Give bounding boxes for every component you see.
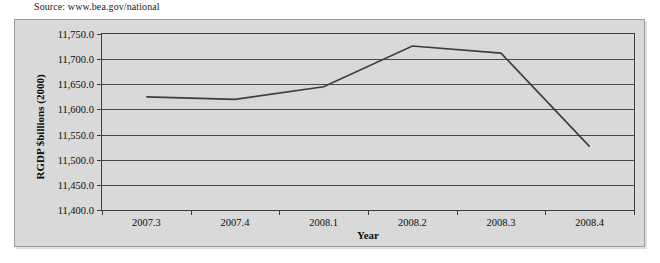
series-line-rgdp bbox=[102, 34, 636, 212]
x-axis-tick-label: 2008.2 bbox=[398, 217, 427, 228]
y-axis-tick-label: 11,400.0 bbox=[58, 205, 94, 216]
y-axis-tick-label: 11,500.0 bbox=[58, 154, 94, 165]
x-axis-title: Year bbox=[101, 229, 635, 241]
x-axis-tick-label: 2008.3 bbox=[487, 217, 516, 228]
y-axis-title: RGDP $billions (2000) bbox=[33, 38, 47, 216]
y-axis-tick-label: 11,650.0 bbox=[58, 79, 94, 90]
y-axis-tick-label: 11,700.0 bbox=[58, 54, 94, 65]
y-axis-tick-label: 11,600.0 bbox=[58, 104, 94, 115]
y-axis-tick-label: 11,750.0 bbox=[58, 29, 94, 40]
y-axis-tick-label: 11,550.0 bbox=[58, 129, 94, 140]
y-axis-tick-label: 11,450.0 bbox=[58, 179, 94, 190]
plot-area: 11,750.011,700.011,650.011,600.011,550.0… bbox=[101, 33, 635, 211]
source-caption: Source: www.bea.gov/national bbox=[34, 1, 160, 12]
x-axis-tick-label: 2008.1 bbox=[309, 217, 338, 228]
chart-frame: RGDP $billions (2000) Year 11,750.011,70… bbox=[14, 19, 645, 247]
x-axis-tick-label: 2007.3 bbox=[132, 217, 161, 228]
x-axis-tick-label: 2008.4 bbox=[575, 217, 604, 228]
series-polyline bbox=[146, 46, 589, 147]
x-axis-tick-label: 2007.4 bbox=[221, 217, 250, 228]
